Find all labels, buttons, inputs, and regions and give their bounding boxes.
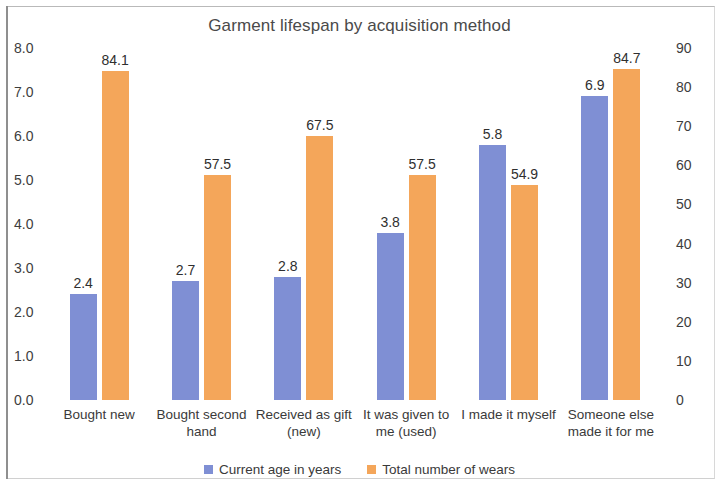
right-axis-tick: 0 [676,392,712,408]
bar-value-label: 3.8 [380,214,399,230]
category-label-line: hand [152,423,250,440]
category-label-line: Someone else [562,406,660,423]
bar-value-label: 2.8 [278,258,297,274]
bar-value-label: 84.7 [613,50,640,66]
right-axis-tick: 10 [676,353,712,369]
bar[interactable] [511,185,538,400]
legend-label: Current age in years [219,462,341,477]
legend-label: Total number of wears [382,462,515,477]
legend-item[interactable]: Current age in years [204,462,341,477]
right-axis-tick: 80 [676,79,712,95]
bar[interactable] [613,69,640,400]
bar-group: 2.757.5 [172,48,231,400]
chart-border-left [6,6,8,479]
bar-group: 6.984.7 [581,48,640,400]
plot-area: 2.484.12.757.52.867.53.857.55.854.96.984… [48,48,662,400]
bar-value-label: 54.9 [511,166,538,182]
legend-item[interactable]: Total number of wears [367,462,515,477]
bar-group: 3.857.5 [377,48,436,400]
category-label-line: It was given to [357,406,455,423]
chart-legend: Current age in yearsTotal number of wear… [0,462,719,477]
legend-swatch-icon [204,465,213,474]
left-axis-tick: 3.0 [14,260,46,276]
bar-value-label: 67.5 [306,117,333,133]
bar[interactable] [172,281,199,400]
category-label: Received as gift(new) [255,406,353,440]
category-label-line: me (used) [357,423,455,440]
left-axis-tick: 0.0 [14,392,46,408]
category-label-line: (new) [255,423,353,440]
right-value-axis: 0102030405060708090 [676,48,712,400]
bar-group: 2.867.5 [274,48,333,400]
right-axis-tick: 50 [676,196,712,212]
chart-title: Garment lifespan by acquisition method [0,16,719,36]
left-axis-tick: 1.0 [14,348,46,364]
bar-value-label: 57.5 [204,156,231,172]
bar[interactable] [70,294,97,400]
bar-value-label: 57.5 [409,156,436,172]
category-label: I made it myself [459,406,557,423]
bar[interactable] [102,71,129,400]
bar-value-label: 5.8 [483,126,502,142]
right-axis-tick: 60 [676,157,712,173]
category-label-line: Bought new [50,406,148,423]
bar[interactable] [306,136,333,400]
category-label: Bought new [50,406,148,423]
left-axis-tick: 4.0 [14,216,46,232]
category-axis: Bought newBought secondhandReceived as g… [48,406,662,462]
right-axis-tick: 30 [676,275,712,291]
right-axis-tick: 70 [676,118,712,134]
right-axis-tick: 20 [676,314,712,330]
left-axis-tick: 8.0 [14,40,46,56]
left-axis-tick: 6.0 [14,128,46,144]
bar[interactable] [274,277,301,400]
bar-group: 2.484.1 [70,48,129,400]
category-label: Bought secondhand [152,406,250,440]
category-label-line: Bought second [152,406,250,423]
category-label-line: I made it myself [459,406,557,423]
left-axis-tick: 2.0 [14,304,46,320]
bar[interactable] [581,96,608,400]
category-label: It was given tome (used) [357,406,455,440]
bar-group: 5.854.9 [479,48,538,400]
bar-value-label: 2.7 [176,262,195,278]
category-label: Someone elsemade it for me [562,406,660,440]
category-label-line: Received as gift [255,406,353,423]
bar[interactable] [409,175,436,400]
right-axis-tick: 90 [676,40,712,56]
bar[interactable] [377,233,404,400]
left-value-axis: 0.01.02.03.04.05.06.07.08.0 [14,48,46,400]
right-axis-tick: 40 [676,236,712,252]
legend-swatch-icon [367,465,376,474]
bar[interactable] [204,175,231,400]
chart-container: Garment lifespan by acquisition method 0… [0,0,719,487]
left-axis-tick: 7.0 [14,84,46,100]
left-axis-tick: 5.0 [14,172,46,188]
bar-value-label: 6.9 [585,77,604,93]
bar-value-label: 84.1 [102,52,129,68]
bar-value-label: 2.4 [73,275,92,291]
category-label-line: made it for me [562,423,660,440]
bar[interactable] [479,145,506,400]
